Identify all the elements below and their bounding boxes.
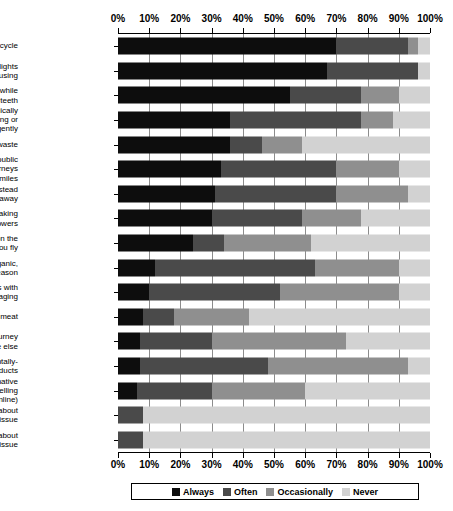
legend-swatch-icon <box>172 488 180 496</box>
bar-segment-often <box>140 333 212 350</box>
bar-row: Buy products with less packaging <box>0 280 453 305</box>
bar-segment-never <box>361 210 430 227</box>
stacked-bar <box>118 407 430 424</box>
bar-segment-occasionally <box>361 112 392 129</box>
category-label: Save water by taking shorter showers <box>0 209 18 227</box>
stacked-bar <box>118 431 430 448</box>
x-tick-label-bottom: 10% <box>139 458 159 472</box>
bar-segment-always <box>118 112 230 129</box>
category-label: Compost your kitchen waste <box>0 140 18 149</box>
bar-segment-occasionally <box>224 234 311 251</box>
legend-label: Never <box>353 487 378 497</box>
bar-segment-often <box>140 357 268 374</box>
legend-swatch-icon <box>342 488 350 496</box>
category-label: Cut down on the amount you fly <box>0 234 18 252</box>
chart-legend: AlwaysOftenOccasionallyNever <box>131 483 419 500</box>
bar-segment-occasionally <box>302 210 361 227</box>
category-label: Buy environmentally- friendly products <box>0 357 18 375</box>
bar-segment-never <box>393 112 430 129</box>
x-axis-tick <box>212 28 213 33</box>
x-axis-tick <box>118 28 119 33</box>
bar-segment-occasionally <box>174 308 249 325</box>
bar-segment-often <box>221 161 336 178</box>
bar-row: Compost your kitchen waste <box>0 132 453 157</box>
stacked-bar <box>118 62 430 79</box>
bar-segment-never <box>418 62 430 79</box>
category-label: Recycle <box>0 42 18 51</box>
bar-segment-never <box>346 333 430 350</box>
bar-row: Turn off lights you're not using <box>0 59 453 84</box>
legend-item-often: Often <box>223 487 258 497</box>
x-tick-label-top: 10% <box>139 12 159 26</box>
category-label: Walk, cycle or take public transport for… <box>0 155 18 183</box>
legend-label: Often <box>234 487 258 497</box>
bar-segment-always <box>118 62 327 79</box>
x-tick-label-bottom: 70% <box>326 458 346 472</box>
bar-segment-often <box>193 234 224 251</box>
stacked-bar <box>118 234 430 251</box>
bar-row: Share a car journey with someone else <box>0 329 453 354</box>
x-tick-label-top: 60% <box>295 12 315 26</box>
x-axis-tick <box>368 28 369 33</box>
bar-segment-always <box>118 185 215 202</box>
legend-label: Always <box>183 487 214 497</box>
bar-segment-never <box>408 185 430 202</box>
bar-segment-often <box>212 210 302 227</box>
stacked-bar <box>118 112 430 129</box>
category-label: Buy products with less packaging <box>0 283 18 301</box>
category-label: Write to your MP about an environmental … <box>0 430 18 448</box>
x-tick-label-bottom: 0% <box>111 458 125 472</box>
bar-segment-often <box>118 431 143 448</box>
bar-segment-occasionally <box>280 284 399 301</box>
category-label: Turn off lights you're not using <box>0 62 18 80</box>
bar-segment-occasionally <box>315 259 399 276</box>
category-label: Use an alternative to travelling (e.g. s… <box>0 377 18 405</box>
x-tick-label-bottom: 40% <box>233 458 253 472</box>
bar-segment-occasionally <box>361 87 398 104</box>
stacked-bar <box>118 308 430 325</box>
bar-segment-always <box>118 87 290 104</box>
bar-segment-always <box>118 308 143 325</box>
x-tick-label-top: 40% <box>233 12 253 26</box>
bar-segment-always <box>118 234 193 251</box>
bar-segment-never <box>399 259 430 276</box>
x-axis-tick <box>399 28 400 33</box>
x-tick-label-top: 70% <box>326 12 346 26</box>
bar-segment-always <box>118 161 221 178</box>
x-tick-label-top: 0% <box>111 12 125 26</box>
legend-item-never: Never <box>342 487 378 497</box>
bar-segment-never <box>305 382 430 399</box>
legend-label: Occasionally <box>277 487 333 497</box>
x-tick-label-bottom: 80% <box>358 458 378 472</box>
bar-segment-often <box>155 259 314 276</box>
bar-segment-never <box>143 431 430 448</box>
x-axis-tick-labels-top: 0%10%20%30%40%50%60%70%80%90%100% <box>118 12 430 26</box>
x-axis-tick-labels-bottom: 0%10%20%30%40%50%60%70%80%90%100% <box>118 458 430 472</box>
bar-segment-occasionally <box>408 38 417 55</box>
bar-row: Recycle <box>0 34 453 59</box>
stacked-bar <box>118 284 430 301</box>
category-label: Reuse or repair items instead of throwin… <box>0 185 18 203</box>
stacked-bar <box>118 38 430 55</box>
bar-row: Turn off the tap while you brush your te… <box>0 83 453 108</box>
bar-segment-always <box>118 259 155 276</box>
stacked-bar <box>118 333 430 350</box>
stacked-bar <box>118 357 430 374</box>
x-tick-label-top: 30% <box>202 12 222 26</box>
x-tick-label-bottom: 100% <box>417 458 443 472</box>
bar-segment-often <box>290 87 362 104</box>
bar-segment-never <box>249 308 430 325</box>
bar-segment-never <box>311 234 430 251</box>
stacked-bar <box>118 259 430 276</box>
bar-segment-always <box>118 357 140 374</box>
x-tick-label-bottom: 30% <box>202 458 222 472</box>
x-axis-tick <box>430 28 431 33</box>
x-axis-tick <box>149 28 150 33</box>
category-label: Take part in a protest about an environm… <box>0 406 18 424</box>
x-tick-label-bottom: 50% <box>264 458 284 472</box>
bar-segment-always <box>118 136 230 153</box>
bar-row: Save water by taking shorter showers <box>0 206 453 231</box>
bar-segment-always <box>118 284 149 301</box>
category-label: Avoid eating meat <box>0 312 18 321</box>
x-tick-label-top: 20% <box>170 12 190 26</box>
